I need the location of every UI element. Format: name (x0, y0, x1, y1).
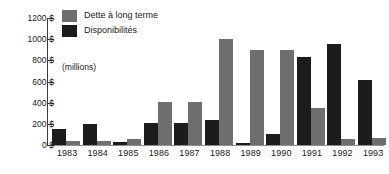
bar-dette-a-long-terme (341, 139, 355, 145)
bar-dette-a-long-terme (219, 39, 233, 145)
x-axis-label: 1993 (357, 149, 389, 158)
bar-disponibilites (144, 123, 158, 145)
bar-disponibilites (266, 134, 280, 145)
bar-dette-a-long-terme (127, 139, 141, 145)
bar-disponibilites (297, 57, 311, 145)
bar-disponibilites (83, 124, 97, 145)
x-axis-label: 1990 (265, 149, 297, 158)
bar-disponibilites (113, 142, 127, 145)
bar-disponibilites (174, 123, 188, 145)
bar-group (113, 18, 143, 145)
bar-dette-a-long-terme (188, 102, 202, 145)
bar-dette-a-long-terme (66, 141, 80, 145)
bar-dette-a-long-terme (250, 50, 264, 145)
bar-dette-a-long-terme (158, 102, 172, 145)
bar-dette-a-long-terme (280, 50, 294, 145)
bar-group (236, 18, 266, 145)
bar-chart: 0 $200 $400 $600 $800 $1000 $1200 $ Dett… (0, 0, 389, 174)
x-axis-label: 1987 (174, 149, 206, 158)
bar-group (358, 18, 388, 145)
x-axis-label: 1983 (51, 149, 83, 158)
bar-dette-a-long-terme (311, 108, 325, 145)
x-axis-label: 1985 (112, 149, 144, 158)
x-axis-label: 1984 (82, 149, 114, 158)
bar-group (266, 18, 296, 145)
bar-group (297, 18, 327, 145)
bar-disponibilites (358, 80, 372, 145)
x-axis-line (47, 145, 384, 146)
x-axis-label: 1992 (327, 149, 359, 158)
x-axis-label: 1989 (235, 149, 267, 158)
x-axis-label: 1991 (296, 149, 328, 158)
bar-group (174, 18, 204, 145)
bar-disponibilites (327, 44, 341, 145)
bar-dette-a-long-terme (97, 141, 111, 145)
bar-disponibilites (52, 129, 66, 145)
bar-disponibilites (205, 120, 219, 145)
x-axis-label: 1988 (204, 149, 236, 158)
bar-group (144, 18, 174, 145)
plot-area (48, 18, 384, 145)
bar-dette-a-long-terme (372, 138, 386, 145)
bar-group (327, 18, 357, 145)
x-axis-label: 1986 (143, 149, 175, 158)
bar-disponibilites (236, 143, 250, 145)
bar-group (205, 18, 235, 145)
bar-group (52, 18, 82, 145)
bar-group (83, 18, 113, 145)
